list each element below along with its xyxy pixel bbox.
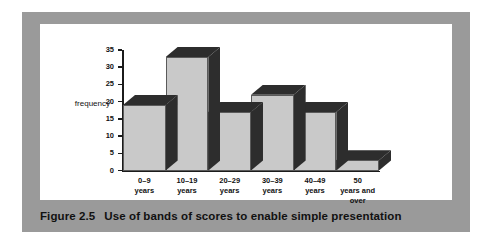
figure-caption-number: Figure 2.5 bbox=[40, 210, 95, 222]
bar bbox=[123, 50, 166, 171]
x-axis-category-line: years and bbox=[329, 186, 386, 196]
y-axis-tick-label: 25 bbox=[92, 80, 114, 88]
chart-card: frequency 05101520253035 0–9years10–19ye… bbox=[40, 24, 452, 200]
bar-side-face bbox=[208, 47, 220, 171]
y-axis-tick bbox=[118, 84, 122, 86]
x-axis-category-label: 50years andover bbox=[329, 176, 386, 206]
bar-side-face bbox=[336, 102, 348, 171]
figure-caption-text: Use of bands of scores to enable simple … bbox=[104, 210, 401, 222]
bar-side-face bbox=[166, 95, 178, 170]
y-axis-tick-label: 35 bbox=[92, 46, 114, 54]
y-axis-tick bbox=[118, 66, 122, 68]
y-axis-tick bbox=[118, 101, 122, 103]
y-axis-tick-label: 30 bbox=[92, 63, 114, 71]
y-axis-tick bbox=[118, 170, 122, 172]
bar-side-face bbox=[251, 102, 263, 171]
y-axis-tick bbox=[118, 135, 122, 137]
y-axis-tick-label: 5 bbox=[92, 149, 114, 157]
x-axis-category-line: 50 bbox=[329, 176, 386, 186]
y-axis-tick-label: 15 bbox=[92, 115, 114, 123]
y-axis-tick bbox=[118, 153, 122, 155]
y-axis-tick-label: 10 bbox=[92, 132, 114, 140]
figure-caption: Figure 2.5 Use of bands of scores to ena… bbox=[40, 206, 460, 226]
y-axis-tick bbox=[118, 49, 122, 51]
figure-panel: frequency 05101520253035 0–9years10–19ye… bbox=[22, 12, 470, 232]
bar-chart: frequency 05101520253035 0–9years10–19ye… bbox=[40, 24, 452, 200]
y-axis-tick-label: 20 bbox=[92, 98, 114, 106]
y-axis-tick bbox=[118, 118, 122, 120]
bar-side-face bbox=[294, 85, 306, 171]
bar-front-face bbox=[123, 105, 166, 170]
y-axis-tick-label: 0 bbox=[92, 167, 114, 175]
x-axis-line bbox=[122, 171, 380, 173]
x-axis-category-line: over bbox=[329, 196, 386, 206]
